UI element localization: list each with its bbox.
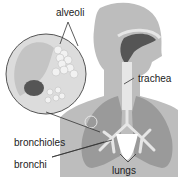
trachea <box>122 62 132 110</box>
label-alveoli: alveoli <box>56 8 84 18</box>
label-bronchi: bronchi <box>14 160 47 170</box>
respiratory-diagram <box>0 0 180 177</box>
label-lungs: lungs <box>112 166 136 176</box>
label-bronchioles: bronchioles <box>14 138 65 148</box>
label-trachea: trachea <box>138 74 171 84</box>
